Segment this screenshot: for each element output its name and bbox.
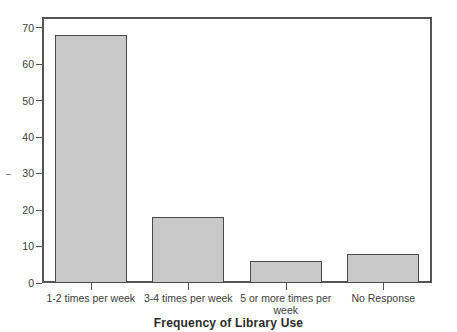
x-tick-mark [91, 283, 92, 290]
x-axis-category-label: 1-2 times per week [42, 292, 140, 304]
y-tick-label: 60 [22, 59, 36, 70]
y-tick-label: 30 [22, 168, 36, 179]
y-tick-label: 20 [22, 205, 36, 216]
bars-layer [42, 17, 432, 283]
x-axis-category-label: No Response [335, 292, 433, 304]
y-tick-label: 70 [22, 23, 36, 34]
x-axis-title: Frequency of Library Use [0, 316, 457, 330]
y-tick-label: 40 [22, 132, 36, 143]
x-tick-mark [286, 283, 287, 290]
x-axis-ticks [42, 283, 432, 291]
y-tick-label: 0 [28, 278, 36, 289]
x-tick-mark [188, 283, 189, 290]
y-tick-label: 50 [22, 96, 36, 107]
x-axis-category-label: 5 or more times per week [237, 292, 335, 316]
x-axis-category-label: 3-4 times per week [140, 292, 238, 304]
bar [250, 261, 322, 283]
y-tick-label: 10 [22, 241, 36, 252]
y-tick-artifact-dash [6, 174, 11, 175]
x-tick-mark [383, 283, 384, 290]
y-axis: 010203040506070 [0, 17, 42, 283]
bar [55, 35, 127, 283]
bar [347, 254, 419, 283]
bar [152, 217, 224, 283]
bar-chart: 010203040506070 1-2 times per week3-4 ti… [0, 0, 457, 332]
